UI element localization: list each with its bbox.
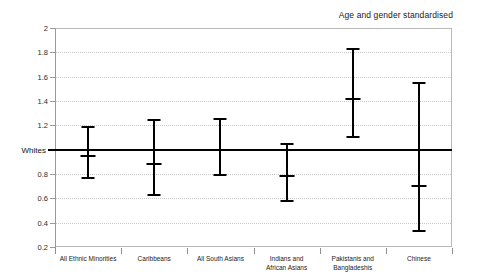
y-axis-label: 2 — [4, 24, 48, 33]
error-bar-upper-cap — [148, 119, 161, 121]
error-bar-point-marker — [81, 155, 96, 157]
gridline — [56, 77, 451, 78]
y-axis: 0.20.40.60.81.21.41.61.82Whites — [0, 0, 48, 280]
error-bar-lower-cap — [412, 230, 425, 232]
gridline — [56, 52, 451, 53]
x-axis: All Ethnic MinoritiesCaribbeansAll South… — [55, 248, 452, 278]
error-bar-lower-cap — [82, 177, 95, 179]
error-bar-upper-cap — [346, 48, 359, 50]
y-axis-tick — [50, 52, 55, 53]
y-axis-label: 1.2 — [4, 121, 48, 130]
error-bar-upper-cap — [280, 143, 293, 145]
x-axis-tick — [55, 248, 56, 254]
gridline — [56, 125, 451, 126]
x-axis-tick — [386, 248, 387, 254]
error-bar-stem — [153, 120, 155, 194]
error-bar — [73, 125, 103, 180]
y-axis-tick — [50, 174, 55, 175]
x-axis-category-label: Caribbeans — [121, 255, 187, 264]
y-axis-tick — [50, 198, 55, 199]
error-bar-point-marker — [279, 175, 294, 177]
error-bar — [272, 142, 302, 203]
y-axis-label: 0.4 — [4, 218, 48, 227]
error-bar-stem — [418, 83, 420, 231]
error-bar — [338, 47, 368, 140]
error-bar — [139, 118, 169, 196]
x-axis-tick — [187, 248, 188, 254]
x-axis-tick — [452, 248, 453, 254]
x-axis-category-label: All South Asians — [187, 255, 253, 264]
error-bar-point-marker — [345, 98, 360, 100]
error-bar-upper-cap — [214, 118, 227, 120]
x-axis-category-label: Indians and African Asians — [254, 255, 320, 272]
error-bar-lower-cap — [214, 174, 227, 176]
error-bar-lower-cap — [346, 136, 359, 138]
chart-annotation: Age and gender standardised — [339, 10, 453, 20]
x-axis-tick — [121, 248, 122, 254]
x-axis-category-label: Chinese — [386, 255, 452, 264]
error-bar-lower-cap — [148, 194, 161, 196]
error-bar-point-marker — [147, 163, 162, 165]
y-axis-tick — [50, 77, 55, 78]
y-axis-tick — [50, 101, 55, 102]
y-axis-tick — [50, 223, 55, 224]
y-axis-tick — [50, 28, 55, 29]
x-axis-category-label: Pakistanis and Bangladeshis — [320, 255, 386, 272]
y-axis-label: 0.8 — [4, 170, 48, 179]
y-axis-label: 1.6 — [4, 72, 48, 81]
error-bar-point-marker — [213, 149, 228, 151]
x-axis-category-label: All Ethnic Minorities — [55, 255, 121, 264]
y-axis-label: 0.2 — [4, 243, 48, 252]
error-bar-lower-cap — [280, 200, 293, 202]
y-axis-tick — [50, 247, 55, 248]
plot-area — [55, 28, 452, 247]
reference-line-label: Whites — [0, 145, 46, 154]
error-bar-stem — [219, 119, 221, 175]
x-axis-tick — [320, 248, 321, 254]
error-bar-upper-cap — [82, 126, 95, 128]
error-bar-chart: Age and gender standardised 0.20.40.60.8… — [0, 0, 477, 280]
y-axis-label: 0.6 — [4, 194, 48, 203]
error-bar-upper-cap — [412, 82, 425, 84]
error-bar-point-marker — [411, 185, 426, 187]
y-axis-label: 1.8 — [4, 48, 48, 57]
gridline — [56, 101, 451, 102]
y-axis-label: 1.4 — [4, 97, 48, 106]
reference-line-whites — [48, 149, 452, 151]
error-bar — [404, 81, 434, 233]
error-bar-stem — [352, 49, 354, 138]
y-axis-line — [55, 28, 56, 248]
error-bar-stem — [286, 144, 288, 201]
gridline — [56, 174, 451, 175]
y-axis-tick — [50, 125, 55, 126]
gridline — [56, 198, 451, 199]
error-bar-stem — [87, 127, 89, 178]
gridline — [56, 223, 451, 224]
error-bar — [205, 117, 235, 177]
x-axis-tick — [254, 248, 255, 254]
